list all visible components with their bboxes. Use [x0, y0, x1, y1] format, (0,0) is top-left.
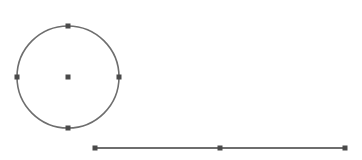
circle-handle-4[interactable]: [66, 75, 71, 80]
circle-handle-2[interactable]: [66, 126, 71, 131]
circle-handle-0[interactable]: [66, 24, 71, 29]
circle-handle-3[interactable]: [15, 75, 20, 80]
line-handle-2[interactable]: [343, 146, 348, 151]
line-handle-1[interactable]: [218, 146, 223, 151]
circle-handles: [15, 24, 122, 131]
circle-handle-1[interactable]: [117, 75, 122, 80]
drawing-canvas[interactable]: [0, 0, 362, 160]
line-handle-0[interactable]: [93, 146, 98, 151]
